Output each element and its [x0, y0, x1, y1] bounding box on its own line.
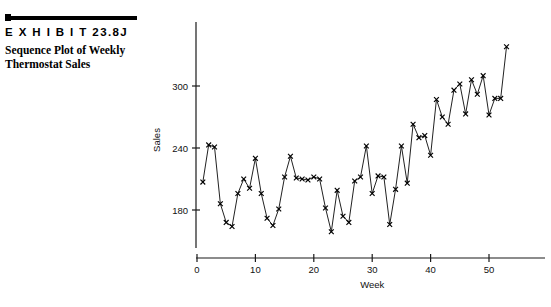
x-tick-label: 40: [425, 264, 436, 275]
y-tick-label: 180: [172, 205, 188, 216]
chart-canvas: 180240300 01020304050 WeekSales: [0, 0, 551, 307]
data-point-marker: [311, 175, 316, 180]
sequence-plot-chart: 180240300 01020304050 WeekSales: [0, 0, 551, 307]
data-series: [200, 44, 508, 234]
x-axis: 01020304050: [194, 254, 545, 275]
x-tick-label: 50: [484, 264, 495, 275]
x-tick-label: 10: [250, 264, 261, 275]
data-point-marker: [241, 177, 246, 182]
x-axis-title: Week: [360, 279, 384, 290]
x-tick-label: 0: [194, 264, 199, 275]
data-point-marker: [224, 220, 229, 225]
y-axis: 180240300: [172, 22, 200, 248]
y-tick-label: 240: [172, 143, 188, 154]
data-point-marker: [475, 92, 480, 97]
data-point-marker: [417, 135, 422, 140]
series-polyline: [203, 47, 507, 232]
y-tick-label: 300: [172, 81, 188, 92]
x-tick-label: 30: [367, 264, 378, 275]
y-axis-title: Sales: [151, 128, 162, 152]
data-point-marker: [271, 223, 276, 228]
x-tick-label: 20: [309, 264, 320, 275]
data-point-marker: [440, 115, 445, 120]
